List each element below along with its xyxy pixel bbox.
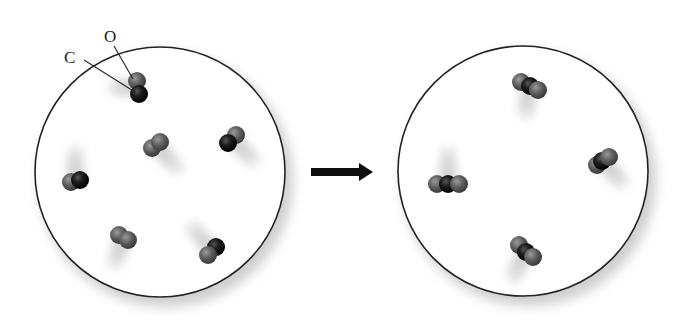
oxygen-atom bbox=[151, 133, 169, 151]
reaction-arrow bbox=[311, 163, 373, 181]
carbon-label: C bbox=[64, 48, 75, 67]
oxygen-atom bbox=[600, 148, 618, 166]
oxygen-atom bbox=[450, 175, 468, 193]
oxygen-atom bbox=[199, 246, 217, 264]
reactants-container bbox=[35, 47, 285, 297]
oxygen-label: O bbox=[104, 27, 116, 46]
reaction-diagram: CO bbox=[0, 0, 686, 326]
products-container bbox=[398, 46, 648, 296]
carbon-atom bbox=[219, 134, 237, 152]
carbon-atom bbox=[130, 85, 148, 103]
arrow-head-icon bbox=[359, 163, 373, 181]
oxygen-atom bbox=[524, 248, 542, 266]
oxygen-atom bbox=[119, 231, 137, 249]
carbon-atom bbox=[71, 171, 89, 189]
arrow-shaft bbox=[311, 168, 361, 176]
oxygen-atom bbox=[529, 81, 547, 99]
